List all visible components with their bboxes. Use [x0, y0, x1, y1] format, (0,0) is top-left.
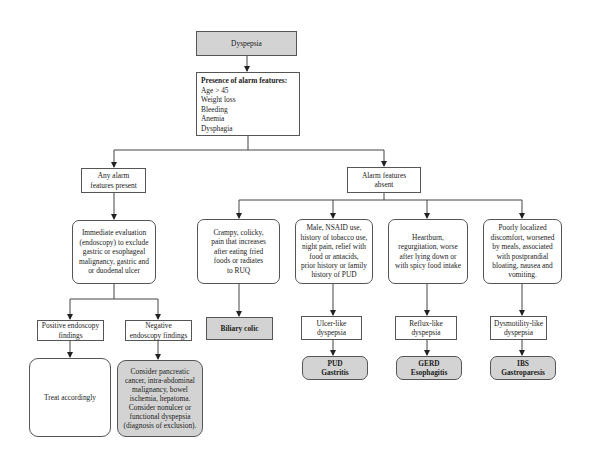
node-immediate-evaluation: Immediate evaluation (endoscopy) to excl… [72, 220, 156, 284]
node-ibs-gastroparesis-label: IBS Gastroparesis [501, 359, 545, 378]
node-alarm-present-label: Any alarm features present [90, 171, 137, 190]
node-pud-gastritis-label: PUD Gastritis [321, 359, 349, 378]
node-alarm-absent: Alarm features absent [347, 167, 421, 193]
node-poorly-localized: Poorly localized discomfort, worsened by… [483, 219, 562, 284]
node-biliary-colic-label: Biliary colic [221, 324, 259, 333]
node-dysmotility-like-label: Dysmotility-like dyspepsia [494, 319, 543, 338]
node-heartburn: Heartburn, regurgitation, worse after ly… [388, 219, 468, 284]
node-dyspepsia-label: Dyspepsia [231, 39, 262, 48]
node-positive-endoscopy: Positive endoscopy findings [37, 320, 104, 341]
node-treat-accordingly-label: Treat accordingly [44, 393, 96, 402]
node-negative-endoscopy-label: Negative endoscopy findings [130, 321, 188, 340]
node-negative-endoscopy: Negative endoscopy findings [125, 320, 192, 341]
node-poorly-localized-label: Poorly localized discomfort, worsened by… [490, 223, 554, 279]
node-dysmotility-like: Dysmotility-like dyspepsia [490, 316, 547, 340]
node-dyspepsia: Dyspepsia [196, 31, 297, 56]
node-reflux-like: Reflux-like dyspepsia [395, 316, 457, 340]
node-crampy-pain: Crampy, colicky, pain that increases aft… [197, 219, 280, 284]
node-gerd-esophagitis-label: GERD Esophagitis [411, 359, 448, 378]
node-heartburn-label: Heartburn, regurgitation, worse after ly… [395, 233, 461, 271]
node-alarm-features-check: Presence of alarm features: Age > 45 Wei… [196, 72, 300, 136]
node-consider-differentials-label: Consider pancreatic cancer, intra-abdomi… [124, 367, 197, 430]
node-reflux-like-label: Reflux-like dyspepsia [409, 319, 443, 338]
node-gerd-esophagitis: GERD Esophagitis [396, 356, 462, 380]
node-male-nsaid: Male, NSAID use, history of tobacco use,… [295, 219, 373, 284]
node-male-nsaid-label: Male, NSAID use, history of tobacco use,… [301, 223, 368, 279]
node-immediate-evaluation-label: Immediate evaluation (endoscopy) to excl… [79, 228, 149, 275]
node-positive-endoscopy-label: Positive endoscopy findings [42, 321, 99, 340]
dyspepsia-flowchart: Dyspepsia Presence of alarm features: Ag… [0, 0, 589, 460]
node-ulcer-like-label: Ulcer-like dyspepsia [317, 319, 347, 338]
node-treat-accordingly: Treat accordingly [29, 358, 111, 437]
node-alarm-present: Any alarm features present [81, 168, 146, 193]
node-pud-gastritis: PUD Gastritis [302, 356, 368, 380]
node-consider-differentials: Consider pancreatic cancer, intra-abdomi… [117, 360, 203, 437]
node-ulcer-like: Ulcer-like dyspepsia [301, 316, 362, 340]
node-alarm-absent-label: Alarm features absent [362, 171, 406, 190]
node-biliary-colic: Biliary colic [206, 317, 273, 340]
node-ibs-gastroparesis: IBS Gastroparesis [490, 356, 556, 380]
alarm-features-title: Presence of alarm features: [201, 76, 287, 86]
node-crampy-pain-label: Crampy, colicky, pain that increases aft… [211, 228, 266, 275]
alarm-features-list: Age > 45 Weight loss Bleeding Anemia Dys… [201, 86, 287, 134]
